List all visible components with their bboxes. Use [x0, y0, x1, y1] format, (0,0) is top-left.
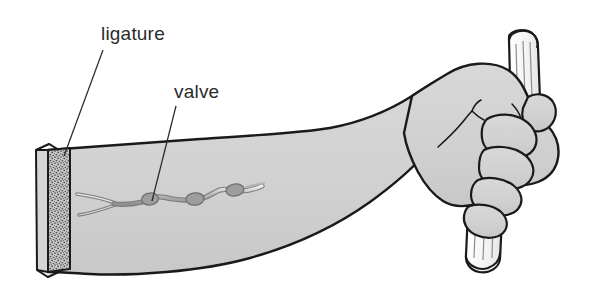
figure-root: ligature valve: [0, 0, 595, 295]
ligature-band: [36, 144, 70, 277]
ligature-label: ligature: [101, 24, 165, 43]
ligature-leader-line: [64, 50, 103, 156]
arm-illustration: [0, 0, 595, 295]
forearm: [48, 75, 455, 274]
valve-label: valve: [174, 82, 219, 101]
